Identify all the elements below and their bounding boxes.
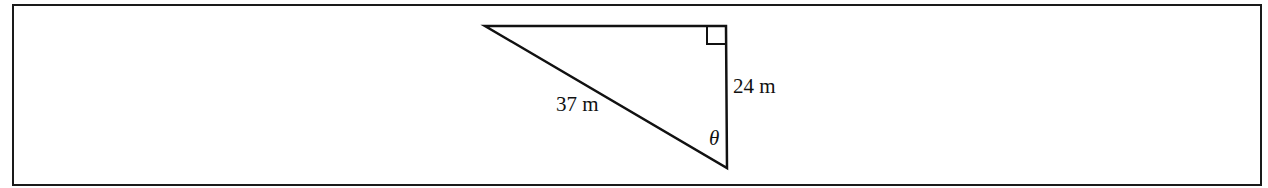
triangle-diagram: 37 m 24 m θ <box>0 0 1268 188</box>
vertical-leg-label: 24 m <box>733 74 776 98</box>
angle-theta-label: θ <box>709 126 719 150</box>
right-angle-marker <box>707 26 726 44</box>
hypotenuse-label: 37 m <box>556 92 599 116</box>
triangle <box>485 26 727 168</box>
